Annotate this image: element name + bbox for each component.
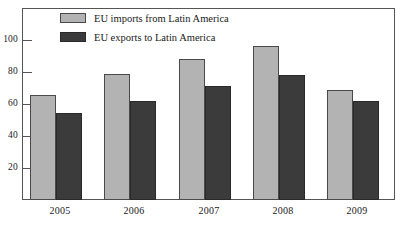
bar-2007-imports xyxy=(179,59,205,200)
bar-2005-exports xyxy=(56,113,82,200)
y-tick-label-40: 40 xyxy=(0,131,18,141)
x-tick-label-2008: 2008 xyxy=(253,206,313,216)
bar-2006-exports xyxy=(130,101,156,200)
bar-2006-imports xyxy=(104,74,130,200)
x-tick-label-2006: 2006 xyxy=(104,206,164,216)
x-tick-label-2009: 2009 xyxy=(327,206,387,216)
y-tick-label-80: 80 xyxy=(0,67,18,77)
x-tick-label-2005: 2005 xyxy=(30,206,90,216)
legend-label-imports: EU imports from Latin America xyxy=(94,13,229,24)
legend-item-exports: EU exports to Latin America xyxy=(60,29,229,45)
bar-2009-imports xyxy=(327,90,353,200)
legend-item-imports: EU imports from Latin America xyxy=(60,10,229,26)
y-tick-label-100: 100 xyxy=(0,35,18,45)
legend-swatch-exports-icon xyxy=(60,32,86,42)
bar-2009-exports xyxy=(353,101,379,200)
bar-2005-imports xyxy=(30,95,56,200)
y-tick-label-20: 20 xyxy=(0,163,18,173)
bar-2007-exports xyxy=(205,86,231,200)
bar-2008-imports xyxy=(253,46,279,200)
bar-chart: 20406080100 20052006200720082009 EU impo… xyxy=(0,0,404,230)
legend-label-exports: EU exports to Latin America xyxy=(94,32,215,43)
bar-2008-exports xyxy=(279,75,305,200)
legend-swatch-imports-icon xyxy=(60,13,86,23)
y-tick-label-60: 60 xyxy=(0,99,18,109)
chart-legend: EU imports from Latin America EU exports… xyxy=(60,10,229,48)
x-tick-label-2007: 2007 xyxy=(179,206,239,216)
